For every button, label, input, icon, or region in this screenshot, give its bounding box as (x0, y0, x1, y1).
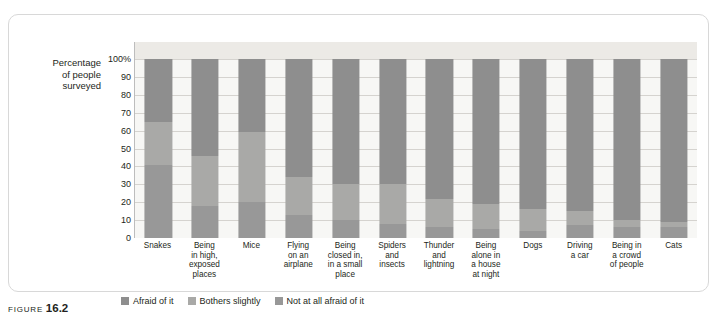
stacked-bar[interactable] (519, 59, 546, 238)
bar-segment (145, 122, 172, 165)
y-axis-title-line-2: of people (23, 69, 101, 81)
bar-segment (566, 59, 593, 211)
x-axis-label-line: insects (370, 260, 415, 270)
x-axis-label-1: Snakes (134, 241, 181, 289)
stacked-bar[interactable] (426, 59, 453, 238)
x-axis-label-8: Beingalone ina houseat night (462, 241, 509, 289)
bar-cell (229, 59, 276, 238)
stacked-bar[interactable] (566, 59, 593, 238)
bar-segment (379, 59, 406, 184)
stacked-bar[interactable] (285, 59, 312, 238)
legend-item[interactable]: Not at all afraid of it (275, 296, 365, 306)
x-axis-label-11: Being ina crowdof people (603, 241, 650, 289)
bar-segment (426, 199, 453, 228)
x-axis-label-line: Being (463, 241, 508, 251)
bar-cell (463, 59, 510, 238)
stacked-bar[interactable] (660, 59, 687, 238)
bar-segment (613, 220, 640, 227)
bar-segment (613, 227, 640, 238)
legend-label: Bothers slightly (200, 296, 261, 306)
x-axis-label-line: and (417, 251, 462, 261)
x-axis-label-line: exposed (182, 260, 227, 270)
legend-label: Afraid of it (133, 296, 174, 306)
x-axis-label-9: Dogs (509, 241, 556, 289)
bar-segment (285, 177, 312, 215)
bar-segment (379, 184, 406, 223)
chart-card: Percentage of people surveyed 100%908070… (8, 14, 709, 292)
bar-cell (182, 59, 229, 238)
stacked-bar[interactable] (145, 59, 172, 238)
x-axis-label-line: Mice (229, 241, 274, 251)
bar-segment (285, 59, 312, 177)
bar-segment (519, 209, 546, 230)
x-axis-label-line: Dogs (510, 241, 555, 251)
bar-segment (519, 59, 546, 209)
bar-segment (660, 59, 687, 222)
y-axis-title-line-3: surveyed (23, 80, 101, 92)
bar-segment (473, 204, 500, 229)
bar-segment (660, 227, 687, 238)
x-axis-label-line: Being (323, 241, 368, 251)
x-axis-label-5: Beingclosed in,in a smallplace (322, 241, 369, 289)
x-axis-label-line: Flying (276, 241, 321, 251)
y-axis-tick-40: 40 (121, 161, 131, 171)
x-axis-label-line: Thunder (417, 241, 462, 251)
bar-segment (566, 225, 593, 238)
x-axis-label-line: a car (557, 251, 602, 261)
bar-segment (238, 59, 265, 132)
x-axis-label-line: Driving (557, 241, 602, 251)
x-axis-label-line: at night (463, 270, 508, 280)
y-axis-title-line-1: Percentage (23, 57, 101, 69)
y-axis-tick-90: 90 (121, 72, 131, 82)
bar-segment (473, 229, 500, 238)
y-axis-tick-30: 30 (121, 179, 131, 189)
stacked-bar[interactable] (332, 59, 359, 238)
y-axis-tick-70: 70 (121, 108, 131, 118)
x-axis-label-line: in high, (182, 251, 227, 261)
x-axis-label-line: airplane (276, 260, 321, 270)
bar-segment (145, 165, 172, 238)
stacked-bar[interactable] (379, 59, 406, 238)
stacked-bar[interactable] (238, 59, 265, 238)
plot-area (134, 42, 697, 238)
bar-cell (416, 59, 463, 238)
legend-item[interactable]: Afraid of it (121, 296, 174, 306)
legend-label: Not at all afraid of it (287, 296, 365, 306)
x-axis-label-line: alone in (463, 251, 508, 261)
legend-item[interactable]: Bothers slightly (188, 296, 261, 306)
bar-segment (192, 156, 219, 206)
y-axis-tick-60: 60 (121, 126, 131, 136)
y-axis-tick-20: 20 (121, 197, 131, 207)
x-axis-label-2: Beingin high,exposedplaces (181, 241, 228, 289)
figure-caption-word: FIGURE (8, 305, 43, 314)
bar-cell (556, 59, 603, 238)
x-axis-label-line: closed in, (323, 251, 368, 261)
x-axis-label-line: lightning (417, 260, 462, 270)
x-axis-label-line: Being (182, 241, 227, 251)
chart-legend: Afraid of itBothers slightlyNot at all a… (121, 296, 364, 306)
y-axis-tick-10: 10 (121, 215, 131, 225)
x-axis-label-line: in a small (323, 260, 368, 270)
stacked-bar[interactable] (192, 59, 219, 238)
x-axis-label-line: Being in (604, 241, 649, 251)
x-axis-label-line: on an (276, 251, 321, 261)
legend-swatch-icon (121, 297, 129, 305)
bar-segment (238, 132, 265, 202)
figure-caption-number: 16.2 (46, 302, 68, 314)
bar-series-container (135, 59, 697, 238)
y-axis-tick-100: 100% (108, 54, 131, 64)
x-axis-label-6: Spidersandinsects (369, 241, 416, 289)
legend-swatch-icon (275, 297, 283, 305)
x-axis-label-10: Drivinga car (556, 241, 603, 289)
bar-cell (369, 59, 416, 238)
bar-segment (332, 184, 359, 220)
bar-segment (192, 59, 219, 156)
bar-segment (192, 206, 219, 238)
y-axis-tick-0: 0 (126, 233, 131, 243)
stacked-bar[interactable] (613, 59, 640, 238)
stacked-bar[interactable] (473, 59, 500, 238)
y-axis-tick-80: 80 (121, 90, 131, 100)
bar-cell (603, 59, 650, 238)
bar-segment (238, 202, 265, 238)
x-axis-label-12: Cats (650, 241, 697, 289)
